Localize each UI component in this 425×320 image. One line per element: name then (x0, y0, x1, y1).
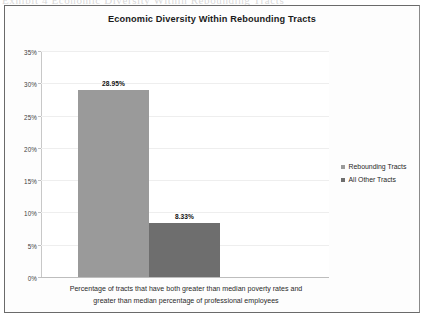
gridline (41, 51, 329, 52)
y-axis-tick-mark (38, 212, 41, 213)
y-axis-tick-label: 25% (24, 113, 37, 120)
y-axis-tick-mark (38, 277, 41, 278)
legend-label: All Other Tracts (349, 176, 396, 183)
legend-label: Rebounding Tracts (349, 163, 407, 170)
x-axis-caption: Percentage of tracts that have both grea… (31, 284, 341, 307)
legend-item-all-other-tracts: All Other Tracts (341, 176, 406, 183)
chart-frame: Economic Diversity Within Rebounding Tra… (4, 5, 420, 313)
y-axis-tick-label: 35% (24, 49, 37, 56)
legend-swatch-icon (341, 165, 345, 169)
chart-title: Economic Diversity Within Rebounding Tra… (5, 14, 419, 24)
axis-baseline (41, 277, 329, 278)
y-axis-tick-label: 15% (24, 178, 37, 185)
y-axis-tick-mark (38, 148, 41, 149)
y-axis-tick-mark (38, 116, 41, 117)
bar-all-other-tracts: 8.33% (149, 223, 220, 277)
y-axis-tick-label: 5% (28, 242, 37, 249)
y-axis-tick-label: 10% (24, 210, 37, 217)
legend-swatch-icon (341, 178, 345, 182)
bar-value-label: 28.95% (78, 80, 149, 87)
legend-item-rebounding-tracts: Rebounding Tracts (341, 163, 406, 170)
y-axis-tick-label: 30% (24, 81, 37, 88)
caption-line-1: Percentage of tracts that have both grea… (31, 284, 341, 296)
bar-value-label: 8.33% (149, 213, 220, 220)
y-axis-tick-label: 0% (28, 275, 37, 282)
y-axis-tick-label: 20% (24, 145, 37, 152)
chart-legend: Rebounding Tracts All Other Tracts (341, 163, 406, 189)
caption-line-2: greater than median percentage of profes… (31, 296, 341, 308)
y-axis-tick-mark (38, 83, 41, 84)
y-axis-tick-mark (38, 180, 41, 181)
y-axis-tick-mark (38, 51, 41, 52)
plot-area: 0%5%10%15%20%25%30%35% 28.95%8.33% (41, 52, 329, 278)
bar-rebounding-tracts: 28.95% (78, 90, 149, 277)
y-axis-tick-mark (38, 245, 41, 246)
